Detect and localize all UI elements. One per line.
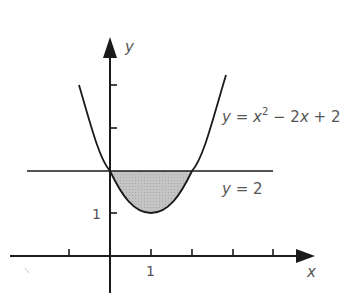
x-ticks — [69, 249, 273, 256]
y-tick-label-1: 1 — [92, 206, 101, 222]
x-axis-arrow-icon — [296, 249, 315, 263]
y-axis-label: y — [124, 38, 135, 56]
parabola-equation-label: y = x2 − 2x + 2 — [221, 106, 340, 126]
x-tick-label-1: 1 — [146, 263, 155, 279]
graph-canvas: y x 1 1 y = x2 − 2x + 2 y = 2 — [0, 0, 350, 293]
y-axis-arrow-icon — [103, 37, 117, 58]
line-equation-label: y = 2 — [221, 180, 263, 198]
scan-speck — [25, 268, 29, 273]
x-axis-label: x — [306, 263, 316, 281]
y-ticks — [110, 85, 117, 213]
